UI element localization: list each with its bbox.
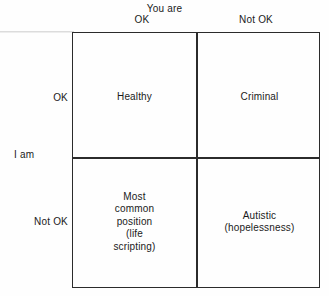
quadrant-label-healthy: Healthy (117, 91, 152, 104)
column-axis-title: You are (0, 3, 329, 14)
row-header-not-ok: Not OK (34, 216, 68, 227)
quadrant-i-ok-you-ok: Healthy (73, 33, 196, 157)
column-header-not-ok: Not OK (222, 14, 290, 25)
quadrant-i-not-ok-you-ok: Most common position (life scripting) (73, 159, 196, 289)
quadrant-grid: Healthy Criminal Most common position (l… (72, 32, 320, 288)
quadrant-i-ok-you-not-ok: Criminal (198, 33, 321, 157)
column-header-ok: OK (108, 14, 176, 25)
row-axis-title: I am (14, 149, 34, 160)
row-header-ok: OK (53, 92, 68, 103)
quadrant-label-criminal: Criminal (241, 91, 279, 104)
quadrant-label-most-common-position: Most common position (life scripting) (113, 191, 155, 254)
scan-artifact-line-secondary (0, 32, 74, 33)
quadrant-i-not-ok-you-not-ok: Autistic (hopelessness) (198, 159, 321, 289)
quadrant-label-autistic: Autistic (hopelessness) (225, 210, 295, 235)
okay-corral-diagram: You are OK Not OK I am OK Not OK Healthy… (0, 0, 329, 296)
